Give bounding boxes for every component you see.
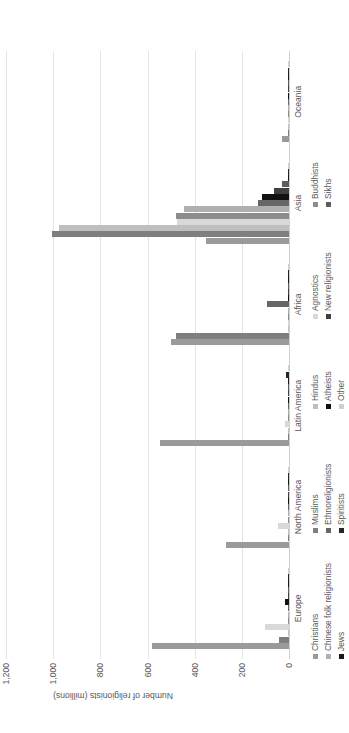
category-label-europe: Europe [293, 594, 303, 622]
legend-swatch-icon [326, 654, 331, 659]
bar [288, 390, 289, 396]
bar [288, 605, 289, 611]
rotated-chart-stage: Number of religionists (millions) 020040… [0, 0, 349, 733]
legend-item-label: Ethnoreligionists [323, 464, 333, 525]
bar [288, 326, 289, 332]
bar [288, 580, 289, 586]
legend-item-label: Hindus [310, 375, 320, 401]
chart-legend: ChristiansChinese folk religionistsJewsM… [310, 39, 348, 659]
bar [288, 397, 289, 403]
bar [288, 618, 289, 624]
legend-item-jews[interactable]: Jews [336, 632, 346, 659]
bar [288, 479, 289, 485]
legend-item-label: New religionists [323, 252, 333, 311]
bar [288, 365, 289, 371]
category-label-asia: Asia [293, 195, 303, 212]
bar [288, 517, 289, 523]
gridline [6, 51, 7, 659]
legend-item-label: Buddhists [310, 162, 320, 199]
bar [288, 612, 289, 618]
value-tick-600: 600 [143, 663, 153, 677]
legend-item-new-religionists[interactable]: New religionists [323, 252, 333, 319]
bar [171, 339, 289, 345]
legend-item-ethnoreligionists[interactable]: Ethnoreligionists [323, 464, 333, 533]
legend-item-label: Other [336, 380, 346, 401]
legend-swatch-icon [339, 654, 344, 659]
bar [288, 80, 289, 86]
bar [176, 333, 289, 339]
bar [288, 99, 289, 105]
legend-item-other[interactable]: Other [336, 380, 346, 409]
bar [285, 599, 289, 605]
bar [288, 74, 289, 80]
category-label-latin-america: Latin America [293, 380, 303, 432]
legend-item-label: Chinese folk religionists [323, 563, 333, 651]
legend-item-hindus[interactable]: Hindus [310, 375, 320, 409]
bar [206, 238, 289, 244]
legend-item-sikhs[interactable]: Sikhs [323, 179, 333, 207]
bar [288, 117, 289, 123]
legend-item-spiritists[interactable]: Spiritists [336, 493, 346, 533]
legend-item-muslims[interactable]: Muslims [310, 494, 320, 533]
legend-item-label: Christians [310, 614, 320, 651]
bar [288, 308, 289, 314]
bar [288, 492, 289, 498]
legend-item-label: Atheists [323, 371, 333, 401]
bar [288, 163, 289, 169]
bar [288, 175, 289, 181]
bar [265, 624, 289, 630]
bar [52, 231, 289, 237]
bar [288, 467, 289, 473]
bar-chart-figure: Number of religionists (millions) 020040… [0, 0, 349, 733]
legend-item-atheists[interactable]: Atheists [323, 371, 333, 409]
legend-item-chinese-folk-religionists[interactable]: Chinese folk religionists [323, 563, 333, 659]
plot-area [6, 51, 289, 659]
legend-item-christians[interactable]: Christians [310, 614, 320, 659]
bar [288, 574, 289, 580]
legend-item-label: Spiritists [336, 493, 346, 525]
bar [288, 587, 289, 593]
category-label-north-america: North America [293, 480, 303, 534]
value-tick-1200: 1,200 [1, 663, 11, 685]
bar [288, 415, 289, 421]
legend-swatch-icon [339, 404, 344, 409]
bar [288, 289, 289, 295]
legend-item-buddhists[interactable]: Buddhists [310, 162, 320, 207]
legend-swatch-icon [313, 314, 318, 319]
value-axis-tick-labels: 02004006008001,0001,200 [0, 663, 295, 697]
bar [288, 314, 289, 320]
bar [288, 283, 289, 289]
bar [288, 111, 289, 117]
bar [288, 270, 289, 276]
legend-swatch-icon [326, 528, 331, 533]
bar [288, 276, 289, 282]
bar [288, 86, 289, 92]
bar [184, 206, 289, 212]
legend-swatch-icon [313, 404, 318, 409]
legend-swatch-icon [313, 654, 318, 659]
bar [288, 409, 289, 415]
bar [288, 130, 289, 136]
legend-item-agnostics[interactable]: Agnostics [310, 275, 320, 319]
legend-item-label: Muslims [310, 494, 320, 525]
bar [267, 301, 289, 307]
bar [176, 213, 289, 219]
bar [288, 473, 289, 479]
bar [152, 643, 289, 649]
bar [262, 194, 289, 200]
bar [288, 630, 289, 636]
bar [288, 593, 289, 599]
bar [282, 136, 289, 142]
legend-swatch-icon [339, 528, 344, 533]
bar [278, 523, 289, 529]
value-tick-1000: 1,000 [48, 663, 58, 685]
bar [288, 434, 289, 440]
bar [288, 93, 289, 99]
gridline [289, 51, 290, 659]
bar [288, 384, 289, 390]
bar [288, 378, 289, 384]
bar [288, 568, 289, 574]
bar [288, 295, 289, 301]
bar [288, 485, 289, 491]
bar [288, 428, 289, 434]
